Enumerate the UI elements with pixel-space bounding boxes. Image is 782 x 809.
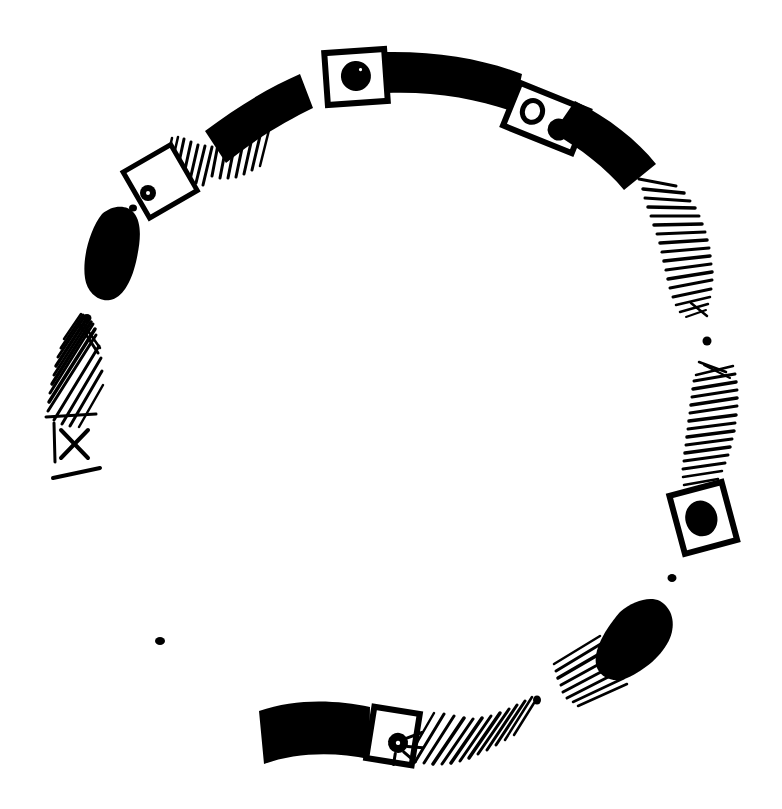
- dot-bottom-left: [155, 637, 165, 645]
- dot-upper-left: [129, 205, 137, 212]
- card-top: [324, 49, 387, 105]
- dot-left: [83, 314, 92, 322]
- dot-right-upper: [703, 337, 712, 346]
- ink-ring-drawing: [0, 0, 782, 809]
- artboard: A hand-drawn pen-and-ink circle made of …: [0, 0, 782, 809]
- card-right: [669, 482, 737, 554]
- card-upper-left-corner-dot-hole: [146, 191, 150, 195]
- canvas-background: [0, 0, 782, 809]
- x-mark-vertical-tick: [54, 423, 55, 462]
- dot-right-lower: [668, 574, 677, 582]
